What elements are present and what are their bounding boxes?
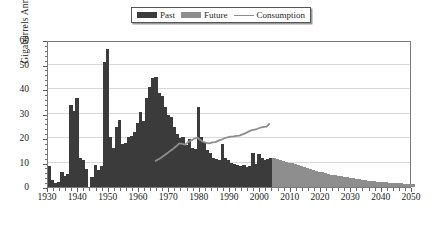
consumption-line xyxy=(155,123,270,161)
x-minor-tick xyxy=(369,188,370,191)
x-minor-tick xyxy=(241,188,242,191)
x-minor-tick xyxy=(65,188,66,191)
x-minor-tick xyxy=(314,188,315,191)
x-tick-mark xyxy=(108,188,109,192)
x-tick-mark xyxy=(47,188,48,192)
legend-item-consumption: Consumption xyxy=(234,11,306,20)
x-minor-tick xyxy=(247,188,248,191)
x-minor-tick xyxy=(308,188,309,191)
legend-swatch-future xyxy=(181,12,201,18)
x-minor-tick xyxy=(174,188,175,191)
x-tick-mark xyxy=(199,188,200,192)
x-minor-tick xyxy=(338,188,339,191)
y-tick-label-20: 20 xyxy=(0,134,29,144)
y-tick-label-30: 30 xyxy=(0,110,29,120)
x-tick-mark xyxy=(411,188,412,192)
x-tick-mark xyxy=(259,188,260,192)
chart-legend: Past Future Consumption xyxy=(131,7,311,23)
legend-swatch-past xyxy=(137,12,157,18)
x-minor-tick xyxy=(271,188,272,191)
x-minor-tick xyxy=(344,188,345,191)
x-minor-tick xyxy=(393,188,394,191)
x-tick-mark xyxy=(77,188,78,192)
x-minor-tick xyxy=(180,188,181,191)
x-minor-tick xyxy=(235,188,236,191)
x-tick-mark xyxy=(290,188,291,192)
legend-label-future: Future xyxy=(204,11,228,20)
x-minor-tick xyxy=(150,188,151,191)
x-minor-tick xyxy=(217,188,218,191)
legend-item-future: Future xyxy=(181,11,228,20)
x-minor-tick xyxy=(375,188,376,191)
x-tick-label-2050: 2050 xyxy=(391,193,431,203)
y-tick-label-60: 60 xyxy=(0,36,29,46)
x-minor-tick xyxy=(278,188,279,191)
x-minor-tick xyxy=(59,188,60,191)
x-minor-tick xyxy=(162,188,163,191)
x-minor-tick xyxy=(399,188,400,191)
x-minor-tick xyxy=(144,188,145,191)
legend-item-past: Past xyxy=(137,11,175,20)
x-minor-tick xyxy=(83,188,84,191)
x-minor-tick xyxy=(53,188,54,191)
x-minor-tick xyxy=(405,188,406,191)
x-minor-tick xyxy=(205,188,206,191)
x-tick-mark xyxy=(138,188,139,192)
y-tick-label-50: 50 xyxy=(0,61,29,71)
bar-future-2050 xyxy=(412,184,415,187)
x-minor-tick xyxy=(296,188,297,191)
x-minor-tick xyxy=(71,188,72,191)
x-minor-tick xyxy=(284,188,285,191)
legend-label-consumption: Consumption xyxy=(257,11,306,20)
x-minor-tick xyxy=(265,188,266,191)
x-tick-mark xyxy=(229,188,230,192)
y-tick-label-40: 40 xyxy=(0,85,29,95)
x-minor-tick xyxy=(102,188,103,191)
x-tick-mark xyxy=(381,188,382,192)
x-minor-tick xyxy=(120,188,121,191)
x-minor-tick xyxy=(132,188,133,191)
x-minor-tick xyxy=(96,188,97,191)
x-minor-tick xyxy=(187,188,188,191)
x-minor-tick xyxy=(387,188,388,191)
x-minor-tick xyxy=(89,188,90,191)
x-tick-mark xyxy=(350,188,351,192)
y-tick-label-0: 0 xyxy=(0,183,29,193)
x-minor-tick xyxy=(302,188,303,191)
y-tick-label-10: 10 xyxy=(0,159,29,169)
x-minor-tick xyxy=(223,188,224,191)
x-tick-mark xyxy=(168,188,169,192)
chart-figure: Past Future Consumption Gigabarrels Annu… xyxy=(0,0,443,228)
plot-area xyxy=(47,41,411,188)
x-minor-tick xyxy=(211,188,212,191)
legend-line-consumption xyxy=(234,15,254,16)
x-minor-tick xyxy=(193,188,194,191)
x-minor-tick xyxy=(356,188,357,191)
x-minor-tick xyxy=(114,188,115,191)
consumption-line-layer xyxy=(48,42,410,188)
legend-label-past: Past xyxy=(160,11,175,20)
x-minor-tick xyxy=(126,188,127,191)
x-minor-tick xyxy=(326,188,327,191)
x-minor-tick xyxy=(332,188,333,191)
x-minor-tick xyxy=(156,188,157,191)
x-tick-mark xyxy=(320,188,321,192)
x-minor-tick xyxy=(253,188,254,191)
x-minor-tick xyxy=(362,188,363,191)
